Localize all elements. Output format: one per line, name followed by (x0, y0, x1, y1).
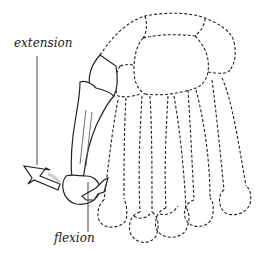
extension-label: extension (14, 36, 72, 50)
extension-arrow-icon (24, 166, 60, 190)
carpal-bones (100, 13, 235, 97)
flexion-label: flexion (54, 231, 95, 245)
metacarpals-dashed (98, 78, 251, 242)
thumb-bones (63, 55, 118, 204)
